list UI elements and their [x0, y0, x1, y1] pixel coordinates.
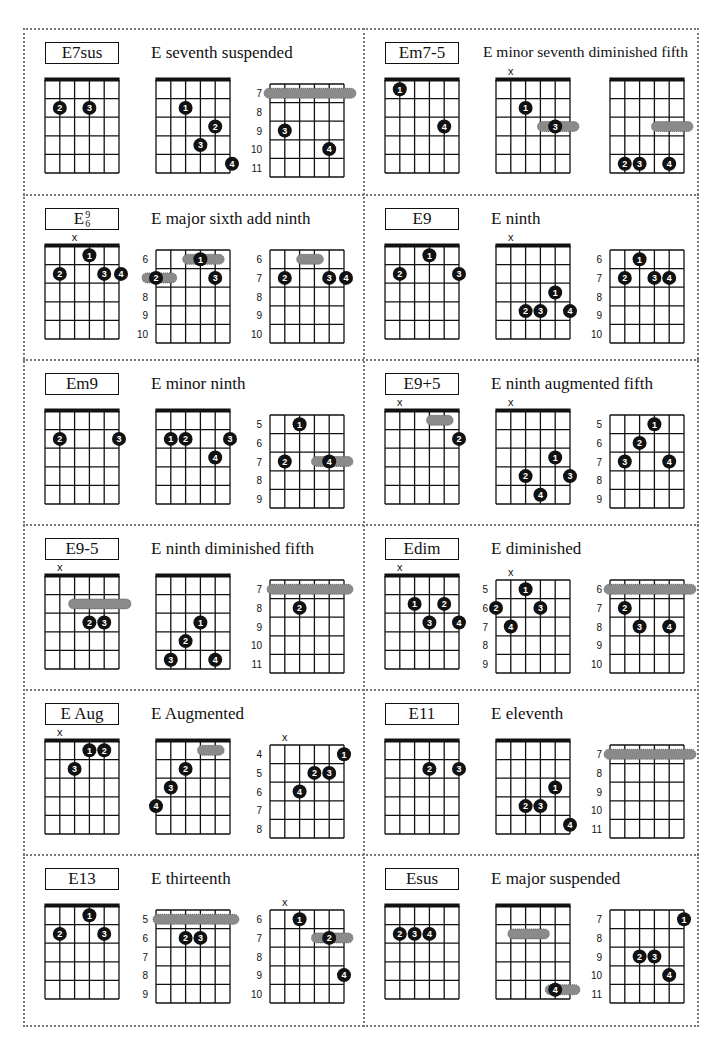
finger-number: 2 [427, 764, 432, 774]
finger-number: 1 [87, 746, 92, 756]
fret-number: 7 [256, 933, 262, 944]
finger-number: 3 [553, 122, 558, 132]
fret-number: 10 [591, 970, 603, 981]
finger-number: 1 [652, 420, 657, 430]
fret-number: 8 [596, 292, 602, 303]
chord-symbol-box: E13 [45, 868, 119, 890]
finger-number: 1 [198, 255, 203, 265]
chord-symbol-box: E Aug [45, 703, 119, 725]
chord-diagram: 56789x1234 [476, 566, 590, 687]
fret-number: 9 [596, 640, 602, 651]
finger-number: 2 [57, 103, 62, 113]
chord-symbol-box: E9 [385, 208, 459, 230]
chord-symbol: E9 [413, 209, 432, 229]
fret-number: 9 [256, 126, 262, 137]
fret-number: 8 [256, 107, 262, 118]
barre-icon [153, 914, 239, 924]
finger-number: 4 [456, 618, 461, 628]
chord-diagram: 5678923 [136, 896, 250, 1017]
fret-number: 8 [256, 603, 262, 614]
finger-number: 4 [213, 453, 218, 463]
chord-diagram: 78910111234 [590, 896, 704, 1017]
fret-number: 10 [251, 640, 263, 651]
fret-number: 8 [482, 640, 488, 651]
barre-icon [197, 745, 224, 755]
finger-number: 2 [213, 122, 218, 132]
finger-number: 3 [102, 929, 107, 939]
chord-diagram: x1234 [476, 397, 590, 518]
chord-diagram: 678910123 [136, 236, 250, 357]
finger-number: 2 [327, 933, 332, 943]
chord-diagram: 567891234 [590, 401, 704, 522]
finger-number: 3 [538, 801, 543, 811]
fret-number: 6 [596, 254, 602, 265]
finger-number: 1 [168, 434, 173, 444]
finger-number: 2 [153, 273, 158, 283]
chord-diagram: 234 [590, 66, 704, 187]
fret-number: 8 [142, 970, 148, 981]
chord-diagram: x2 [365, 397, 479, 518]
finger-number: 3 [622, 457, 627, 467]
finger-number: 3 [427, 618, 432, 628]
finger-number: 4 [667, 273, 672, 283]
finger-number: 4 [567, 306, 572, 316]
chord-description: E thirteenth [151, 869, 231, 889]
muted-string-icon: x [508, 566, 514, 578]
chord-diagram: 1234 [136, 562, 250, 683]
finger-number: 1 [87, 911, 92, 921]
fret-number: 7 [482, 622, 488, 633]
fret-number: 7 [596, 603, 602, 614]
finger-number: 3 [168, 783, 173, 793]
finger-number: 2 [637, 438, 642, 448]
finger-number: 3 [567, 471, 572, 481]
chord-description: E diminished [491, 539, 581, 559]
chord-diagram: 1234 [476, 727, 590, 848]
finger-number: 1 [183, 103, 188, 113]
fret-number: 4 [256, 749, 262, 760]
finger-number: 2 [523, 306, 528, 316]
chord-diagram: x1234 [476, 232, 590, 353]
finger-number: 4 [297, 787, 302, 797]
finger-number: 3 [198, 140, 203, 150]
chord-cell: Em9E minor ninth23123456789124 [23, 359, 363, 524]
fret-number: 9 [256, 622, 262, 633]
fret-number: 7 [596, 273, 602, 284]
finger-number: 2 [312, 768, 317, 778]
muted-string-icon: x [508, 65, 514, 77]
finger-number: 4 [667, 159, 672, 169]
chord-symbol: Em9 [66, 374, 98, 394]
chord-cell: Em7-5E minor seventh diminished fifth14x… [363, 28, 703, 194]
chord-diagram: 1234 [136, 397, 250, 518]
chord-symbol: Em7-5 [399, 43, 445, 63]
fret-number: 6 [482, 603, 488, 614]
barre-icon [651, 122, 693, 132]
finger-number: 4 [567, 820, 572, 830]
finger-number: 2 [183, 764, 188, 774]
barre-icon [267, 584, 353, 594]
fret-number: 10 [591, 805, 603, 816]
fret-number: 7 [596, 749, 602, 760]
finger-number: 2 [183, 434, 188, 444]
fret-number: 6 [256, 254, 262, 265]
finger-number: 2 [57, 929, 62, 939]
fret-number: 10 [591, 329, 603, 340]
chord-diagram: x123 [25, 727, 139, 848]
fret-number: 9 [256, 310, 262, 321]
chord-symbol-extension: 96 [85, 210, 90, 228]
muted-string-icon: x [57, 561, 63, 573]
chord-symbol: E9-5 [65, 539, 98, 559]
finger-number: 2 [57, 269, 62, 279]
chord-description: E ninth augmented fifth [491, 374, 653, 394]
chord-diagram: x1234 [365, 562, 479, 683]
muted-string-icon: x [397, 396, 403, 408]
finger-number: 2 [102, 746, 107, 756]
fret-number: 8 [256, 952, 262, 963]
fret-number: 10 [251, 144, 263, 155]
chord-diagram: x1234 [25, 232, 139, 353]
finger-number: 4 [343, 273, 348, 283]
finger-number: 2 [442, 599, 447, 609]
finger-number: 2 [57, 434, 62, 444]
fret-number: 9 [482, 659, 488, 670]
chord-symbol-box: E9-5 [45, 538, 119, 560]
finger-number: 3 [637, 622, 642, 632]
